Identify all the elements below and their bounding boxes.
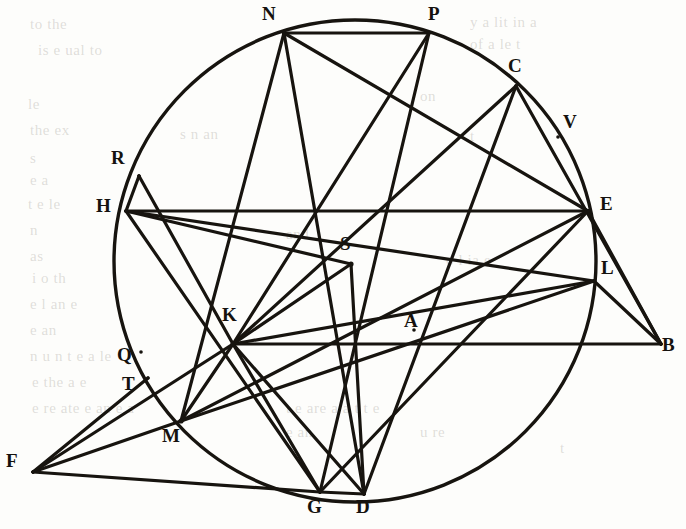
point-label-P: P — [428, 4, 440, 23]
point-label-K: K — [222, 305, 237, 324]
point-label-A: A — [404, 311, 418, 330]
point-label-H: H — [96, 196, 111, 215]
geometric-figure: to they a lit in aof a le tis e ual toon… — [0, 0, 686, 529]
point-label-E: E — [600, 194, 613, 213]
point-label-S: S — [340, 234, 351, 253]
point-label-C: C — [508, 56, 522, 75]
point-label-R: R — [111, 148, 125, 167]
point-label-M: M — [162, 426, 180, 445]
point-label-F: F — [6, 451, 18, 470]
point-label-V: V — [563, 112, 577, 131]
point-label-T: T — [122, 374, 135, 393]
point-label-Q: Q — [117, 345, 132, 364]
point-label-N: N — [262, 4, 276, 23]
point-label-G: G — [307, 497, 322, 516]
point-label-layer: NPCVRHESLKABQTMFGD — [0, 0, 686, 529]
point-label-L: L — [601, 258, 614, 277]
point-label-B: B — [662, 335, 675, 354]
point-label-D: D — [356, 497, 370, 516]
